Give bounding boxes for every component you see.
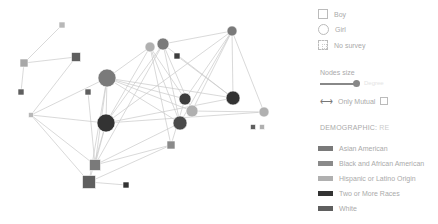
legend-girl-label: Girl [335,26,346,33]
nodes-size-label: Nodes size [320,69,355,76]
graph-node-girl[interactable] [186,105,198,117]
demographic-item-label: Black and African American [339,160,424,167]
graph-node-boy[interactable] [20,59,28,67]
demographic-item-label: White [339,205,357,212]
slider-track[interactable] [320,83,356,85]
graph-node-boy[interactable] [72,53,81,62]
color-swatch-icon [318,206,333,211]
only-mutual-checkbox[interactable] [380,97,388,105]
demographic-item-label: Two or More Races [339,190,400,197]
graph-edge [31,115,106,123]
legend-girl: Girl [318,24,346,35]
demographic-item: Black and African American [318,160,424,167]
graph-node-girl[interactable] [157,38,169,50]
demographic-title-label: DEMOGRAPHIC: [320,124,377,131]
graph-edge [24,25,62,63]
graph-node-girl[interactable] [227,26,237,36]
graph-node-boy[interactable] [59,22,65,28]
legend-no-survey: No survey [318,40,366,50]
demographic-item: White [318,205,357,212]
network-graph[interactable] [0,0,310,224]
graph-edge [192,111,264,112]
graph-edge [31,115,89,182]
graph-edge [24,57,76,63]
color-swatch-icon [318,161,333,166]
graph-edge [31,115,95,165]
graph-edge [232,31,233,98]
slider-knob[interactable] [353,80,360,87]
demographic-item: Two or More Races [318,190,400,197]
color-swatch-icon [318,146,333,151]
graph-edge [88,92,95,165]
only-mutual-label: Only Mutual [338,98,375,105]
graph-edge [163,31,232,44]
legend-boy: Boy [318,9,346,19]
legend-panel: Boy Girl No survey Nodes size Degree ⟷ O… [318,0,438,224]
no-survey-icon [318,40,328,50]
graph-node-boy[interactable] [18,89,24,95]
graph-edges [21,25,264,185]
graph-node-girl[interactable] [173,116,187,130]
color-swatch-icon [318,176,333,181]
graph-node-boy[interactable] [29,113,34,118]
demographic-selector[interactable]: RE [379,124,389,131]
demographic-item: Hispanic or Latino Origin [318,175,416,182]
graph-node-boy[interactable] [167,141,175,149]
graph-edge [107,78,180,123]
graph-edge [107,78,192,111]
double-arrow-icon: ⟷ [320,97,333,105]
graph-edge [185,31,232,99]
graph-node-girl[interactable] [179,93,191,105]
legend-no-survey-label: No survey [334,42,366,49]
graph-node-boy[interactable] [260,125,265,130]
graph-edge [106,98,233,123]
demographic-item-label: Hispanic or Latino Origin [339,175,416,182]
only-mutual-toggle[interactable]: ⟷ Only Mutual [320,97,388,105]
nodes-size-value: Degree [364,80,384,86]
legend-boy-label: Boy [334,11,346,18]
graph-node-girl[interactable] [98,69,116,87]
graph-edge [177,56,233,98]
graph-edge [31,78,107,115]
graph-node-girl[interactable] [259,107,269,117]
graph-edge [31,57,76,115]
graph-node-girl[interactable] [97,114,115,132]
graph-node-boy[interactable] [90,160,101,171]
demographic-item-label: Asian American [339,145,388,152]
graph-node-boy[interactable] [123,182,129,188]
graph-edge [21,63,24,92]
demographic-title: DEMOGRAPHIC:RE [320,124,389,131]
demographic-item: Asian American [318,145,388,152]
graph-node-girl[interactable] [145,42,155,52]
graph-node-boy[interactable] [251,125,256,130]
graph-edge [106,44,163,123]
graph-node-boy[interactable] [174,53,180,59]
graph-node-boy[interactable] [85,89,91,95]
circle-icon [318,24,329,35]
nodes-size-slider[interactable]: Degree [320,80,380,88]
graph-node-girl[interactable] [226,91,240,105]
graph-node-boy[interactable] [83,176,96,189]
square-icon [318,9,328,19]
graph-nodes [18,22,269,189]
color-swatch-icon [318,191,333,196]
